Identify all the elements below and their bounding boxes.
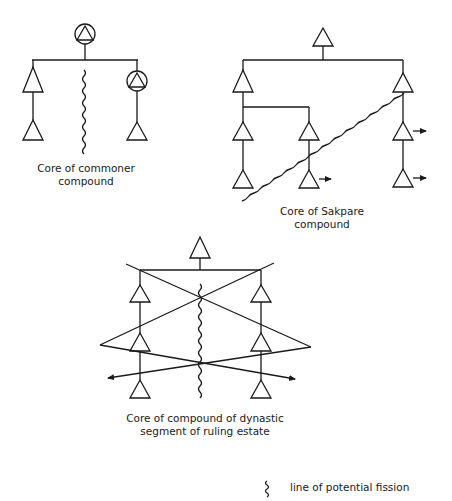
triangle-icon [393,122,413,140]
triangle-icon [233,70,253,92]
triangle-icon [251,285,271,302]
caption-commoner: Core of commoner compound [36,162,136,188]
triangle-icon [251,333,271,351]
diagram-sakpare [233,28,426,201]
triangle-icon [23,67,43,92]
triangle-icon [233,170,253,188]
circled-triangle-icon [75,24,95,44]
legend-label: line of potential fission [290,481,409,494]
triangle-icon [251,380,271,398]
triangle-icon [299,170,319,188]
triangle-icon [299,122,319,140]
triangle-icon [130,285,150,302]
diagram-commoner [23,24,147,154]
triangle-icon [393,169,413,187]
triangle-icon [233,122,253,140]
circled-triangle-icon [127,71,147,91]
triangle-icon [313,28,333,46]
triangle-icon [190,237,210,258]
diagram-dynastic [100,237,311,398]
fission-line [242,93,404,201]
triangle-icon [130,380,150,398]
triangle-icon [127,122,147,140]
triangle-icon [130,333,150,351]
triangle-icon [393,73,413,92]
legend-wavy-icon [266,481,269,497]
triangle-icon [23,120,43,140]
caption-sakpare: Core of Sakpare compound [272,205,372,231]
fission-line [199,284,202,398]
caption-dynastic: Core of compound of dynastic segment of … [120,412,290,438]
fission-line [83,70,86,154]
